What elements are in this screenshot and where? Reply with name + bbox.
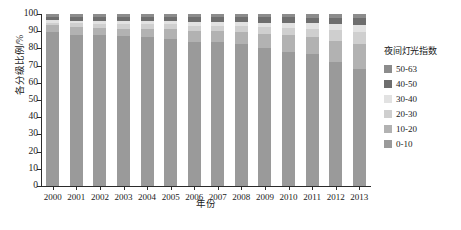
- x-tick-mark: [194, 186, 195, 190]
- bar-segment: [282, 28, 295, 36]
- bar-segment: [353, 32, 366, 44]
- x-tick-mark: [289, 186, 290, 190]
- bar-segment: [141, 37, 154, 186]
- y-tick-label: 60: [29, 76, 39, 89]
- legend: 夜间灯光指数 50-6340-5030-4020-3010-200-10: [384, 44, 461, 151]
- bar-segment: [93, 35, 106, 186]
- y-tick-label: 0: [33, 179, 38, 192]
- legend-item[interactable]: 20-30: [384, 106, 461, 121]
- bar-segment: [306, 29, 319, 38]
- bar-segment: [353, 69, 366, 186]
- bar-stack: [353, 14, 366, 186]
- bar-segment: [93, 28, 106, 36]
- bar-segment: [282, 35, 295, 51]
- bar-segment: [235, 44, 248, 186]
- bar-segment: [329, 62, 342, 186]
- legend-label: 40-50: [396, 79, 417, 89]
- bar-segment: [188, 42, 201, 186]
- bar-segment: [211, 31, 224, 42]
- bar-segment: [70, 27, 83, 35]
- y-tick-label: 30: [29, 127, 39, 140]
- legend-item[interactable]: 50-63: [384, 61, 461, 76]
- legend-item[interactable]: 0-10: [384, 136, 461, 151]
- x-tick-mark: [53, 186, 54, 190]
- bar-segment: [164, 29, 177, 38]
- x-tick-mark: [218, 186, 219, 190]
- bar-segment: [353, 18, 366, 25]
- bar-segment: [211, 42, 224, 186]
- bar-segment: [117, 29, 130, 37]
- bar-segment: [141, 29, 154, 38]
- plot-area: 0102030405060708090100 20002001200220032…: [41, 14, 371, 186]
- bar-stack: [164, 14, 177, 186]
- bar-segment: [46, 32, 59, 186]
- legend-item[interactable]: 40-50: [384, 76, 461, 91]
- x-tick-mark: [359, 186, 360, 190]
- stacked-bar-chart: 各分级比例/% 0102030405060708090100 200020012…: [0, 0, 461, 230]
- legend-swatch: [384, 140, 392, 148]
- y-tick-label: 80: [29, 41, 39, 54]
- bar-segment: [353, 44, 366, 69]
- bar-segment: [282, 52, 295, 186]
- y-tick-label: 40: [29, 110, 39, 123]
- bar-segment: [117, 36, 130, 186]
- legend-swatch: [384, 125, 392, 133]
- legend-swatch: [384, 80, 392, 88]
- bar-stack: [93, 14, 106, 186]
- x-axis-line: [41, 186, 371, 187]
- legend-label: 10-20: [396, 124, 417, 134]
- bar-segment: [188, 31, 201, 41]
- y-tick-label: 90: [29, 24, 39, 37]
- bar-stack: [306, 14, 319, 186]
- legend-swatch: [384, 95, 392, 103]
- bar-stack: [282, 14, 295, 186]
- bar-segment: [306, 54, 319, 186]
- y-axis-title: 各分级比例/%: [12, 10, 26, 120]
- legend-items: 50-6340-5030-4020-3010-200-10: [384, 61, 461, 151]
- bar-stack: [70, 14, 83, 186]
- legend-label: 20-30: [396, 109, 417, 119]
- y-tick-label: 100: [24, 7, 38, 20]
- bar-stack: [141, 14, 154, 186]
- x-tick-mark: [336, 186, 337, 190]
- bar-stack: [329, 14, 342, 186]
- bar-segment: [70, 35, 83, 186]
- y-tick-label: 10: [29, 162, 39, 175]
- bar-segment: [329, 30, 342, 40]
- bar-segment: [306, 37, 319, 54]
- bar-stack: [258, 14, 271, 186]
- legend-label: 50-63: [396, 64, 417, 74]
- bar-stack: [188, 14, 201, 186]
- x-tick-mark: [265, 186, 266, 190]
- x-tick-mark: [100, 186, 101, 190]
- bar-segment: [329, 41, 342, 63]
- bar-segment: [258, 34, 271, 48]
- x-tick-mark: [241, 186, 242, 190]
- bar-stack: [117, 14, 130, 186]
- legend-item[interactable]: 30-40: [384, 91, 461, 106]
- x-tick-mark: [147, 186, 148, 190]
- x-tick-mark: [124, 186, 125, 190]
- bar-segment: [353, 25, 366, 32]
- bar-segment: [235, 32, 248, 44]
- x-tick-mark: [171, 186, 172, 190]
- bar-segment: [258, 48, 271, 186]
- legend-item[interactable]: 10-20: [384, 121, 461, 136]
- y-tick-label: 50: [29, 93, 39, 106]
- y-axis-line: [41, 14, 42, 186]
- bar-stack: [211, 14, 224, 186]
- x-axis-title: 年份: [41, 196, 371, 210]
- x-tick-mark: [312, 186, 313, 190]
- legend-label: 30-40: [396, 94, 417, 104]
- y-tick-label: 70: [29, 59, 39, 72]
- bar-segment: [164, 39, 177, 186]
- bar-segment: [46, 25, 59, 32]
- legend-title: 夜间灯光指数: [384, 44, 461, 57]
- y-tick-label: 20: [29, 145, 39, 158]
- legend-swatch: [384, 65, 392, 73]
- legend-label: 0-10: [396, 139, 413, 149]
- bar-stack: [235, 14, 248, 186]
- legend-swatch: [384, 110, 392, 118]
- bar-stack: [46, 14, 59, 186]
- x-tick-mark: [76, 186, 77, 190]
